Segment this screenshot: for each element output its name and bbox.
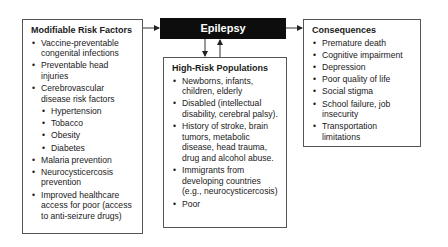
- epilepsy-box: Epilepsy: [160, 18, 286, 39]
- list-item: Neurocysticercosis prevention: [31, 167, 136, 188]
- list-subitem: Obesity: [31, 130, 136, 141]
- list-item: Poor: [172, 199, 280, 210]
- modifiable-list: Vaccine-preventable congenital infection…: [31, 38, 136, 222]
- high-risk-list: Newborns, infants, children, elderly Dis…: [172, 76, 280, 210]
- list-item: Premature death: [312, 38, 414, 49]
- modifiable-risk-factors-box: Modifiable Risk Factors Vaccine-preventa…: [22, 19, 143, 234]
- list-item: Cerebrovascular disease risk factors: [31, 83, 136, 104]
- list-item: Social stigma: [312, 86, 414, 97]
- list-item: Vaccine-preventable congenital infection…: [31, 38, 136, 59]
- consequences-list: Premature death Cognitive impairment Dep…: [312, 38, 414, 143]
- consequences-box: Consequences Premature death Cognitive i…: [303, 19, 421, 147]
- list-item: Immigrants from developing countries (e.…: [172, 165, 280, 197]
- list-subitem: Tobacco: [31, 118, 136, 129]
- high-risk-populations-box: High-Risk Populations Newborns, infants,…: [163, 57, 287, 228]
- epilepsy-label: Epilepsy: [200, 22, 245, 34]
- list-item: Improved healthcare access for poor (acc…: [31, 190, 136, 222]
- high-risk-title: High-Risk Populations: [172, 63, 280, 74]
- list-item: Depression: [312, 62, 414, 73]
- list-item: Transportation limitations: [312, 121, 414, 142]
- list-item: Disabled (intellectual disability, cereb…: [172, 98, 280, 119]
- list-item: Preventable head injuries: [31, 60, 136, 81]
- list-item: History of stroke, brain tumors, metabol…: [172, 121, 280, 163]
- consequences-title: Consequences: [312, 25, 414, 36]
- list-item: Malaria prevention: [31, 155, 136, 166]
- modifiable-title: Modifiable Risk Factors: [31, 25, 136, 36]
- list-subitem: Hypertension: [31, 106, 136, 117]
- list-item: Newborns, infants, children, elderly: [172, 76, 280, 97]
- list-item: School failure, job insecurity: [312, 99, 414, 120]
- list-item: Poor quality of life: [312, 74, 414, 85]
- list-item: Cognitive impairment: [312, 50, 414, 61]
- list-subitem: Diabetes: [31, 143, 136, 154]
